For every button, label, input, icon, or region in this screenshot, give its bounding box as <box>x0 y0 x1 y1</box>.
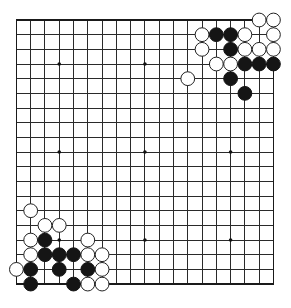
white-stone[interactable] <box>238 42 252 56</box>
white-stone[interactable] <box>81 233 95 247</box>
star-point <box>229 238 233 242</box>
black-stone[interactable] <box>252 57 266 71</box>
white-stone[interactable] <box>24 248 38 262</box>
star-point <box>143 62 147 66</box>
white-stone[interactable] <box>95 262 109 276</box>
black-stone[interactable] <box>24 277 38 291</box>
white-stone[interactable] <box>238 28 252 42</box>
star-point <box>143 150 147 154</box>
white-stone[interactable] <box>10 262 24 276</box>
black-stone[interactable] <box>38 233 52 247</box>
black-stone[interactable] <box>67 277 81 291</box>
white-stone[interactable] <box>95 277 109 291</box>
white-stone[interactable] <box>24 233 38 247</box>
black-stone[interactable] <box>38 248 52 262</box>
black-stone[interactable] <box>24 262 38 276</box>
black-stone[interactable] <box>209 28 223 42</box>
white-stone[interactable] <box>267 13 281 27</box>
star-point <box>229 150 233 154</box>
black-stone[interactable] <box>67 248 81 262</box>
white-stone[interactable] <box>267 42 281 56</box>
black-stone[interactable] <box>52 262 66 276</box>
white-stone[interactable] <box>181 72 195 86</box>
white-stone[interactable] <box>224 57 238 71</box>
star-point <box>57 62 61 66</box>
black-stone[interactable] <box>224 72 238 86</box>
white-stone[interactable] <box>195 28 209 42</box>
white-stone[interactable] <box>24 204 38 218</box>
white-stone[interactable] <box>38 218 52 232</box>
white-stone[interactable] <box>267 28 281 42</box>
white-stone[interactable] <box>81 248 95 262</box>
white-stone[interactable] <box>81 277 95 291</box>
go-board[interactable] <box>0 0 291 308</box>
black-stone[interactable] <box>52 248 66 262</box>
black-stone[interactable] <box>81 262 95 276</box>
star-point <box>57 238 61 242</box>
white-stone[interactable] <box>195 42 209 56</box>
white-stone[interactable] <box>209 57 223 71</box>
go-board-canvas[interactable] <box>0 0 291 308</box>
black-stone[interactable] <box>267 57 281 71</box>
white-stone[interactable] <box>52 218 66 232</box>
white-stone[interactable] <box>252 13 266 27</box>
black-stone[interactable] <box>224 42 238 56</box>
black-stone[interactable] <box>238 86 252 100</box>
white-stone[interactable] <box>95 248 109 262</box>
star-point <box>57 150 61 154</box>
star-point <box>143 238 147 242</box>
black-stone[interactable] <box>238 57 252 71</box>
black-stone[interactable] <box>224 28 238 42</box>
white-stone[interactable] <box>252 42 266 56</box>
